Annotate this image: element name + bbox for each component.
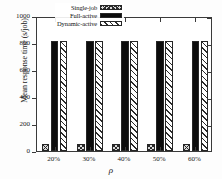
bar [77,144,85,151]
x-tick-mark [55,147,56,151]
bar [42,144,50,151]
bar [156,41,164,151]
bar [192,41,200,151]
x-tick-mark [160,147,161,151]
bar [60,41,68,151]
y-tick-mark-right [207,72,211,73]
x-tick-mark-top [195,18,196,22]
y-tick-mark-right [207,99,211,100]
x-tick-label: 60% [179,155,209,163]
bar [51,41,59,151]
chart-legend: Single-jobFull-activeDynamic-active [55,3,124,29]
x-tick-label: 40% [109,155,139,163]
x-tick-mark [90,147,91,151]
legend-item: Full-active [57,12,122,19]
bar [121,41,129,151]
legend-label: Full-active [70,12,97,19]
y-tick-mark-right [207,45,211,46]
y-tick-label: 400 [20,93,31,101]
y-tick-mark-right [207,126,211,127]
y-tick-label: 600 [20,66,31,74]
x-tick-mark [195,147,196,151]
y-tick-mark-right [207,18,211,19]
x-tick-mark-top [125,18,126,22]
bar [183,144,191,151]
legend-label: Single-job [71,4,97,11]
x-tick-label: 30% [74,155,104,163]
bar [95,41,103,151]
legend-item: Single-job [57,4,122,11]
y-tick-label: 200 [20,120,31,128]
bar-chart: Mean response time (s/job) 0200400600800… [0,0,222,179]
bar [165,41,173,151]
legend-swatch [100,21,122,26]
y-tick-label: 0 [27,147,31,155]
legend-swatch [100,13,122,18]
x-tick-label: 50% [144,155,174,163]
legend-label: Dynamic-active [57,20,97,27]
plot-area [36,17,212,152]
legend-swatch [100,5,122,10]
y-tick-label: 1000 [16,12,30,20]
x-tick-mark [125,147,126,151]
x-axis-title: ρ [0,165,222,175]
y-tick-label: 800 [20,39,31,47]
bar [130,41,138,151]
bar [147,144,155,151]
legend-item: Dynamic-active [57,20,122,27]
x-tick-label: 20% [39,155,69,163]
bar [86,41,94,151]
x-tick-mark-top [160,18,161,22]
bar [201,41,209,151]
y-tick-mark [32,152,36,153]
bar [112,144,120,151]
